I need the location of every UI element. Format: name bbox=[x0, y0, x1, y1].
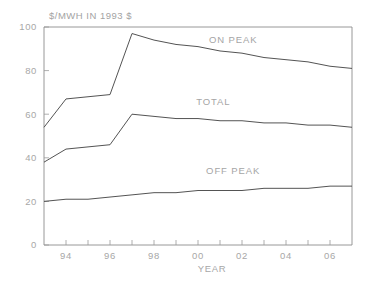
y-tick-label: 80 bbox=[25, 65, 37, 76]
y-tick-label: 0 bbox=[31, 239, 37, 250]
chart-title: $/MWH IN 1993 $ bbox=[49, 10, 132, 21]
x-axis-title: YEAR bbox=[198, 263, 226, 274]
series-label-off-peak: OFF PEAK bbox=[206, 165, 260, 176]
x-tick-label: 94 bbox=[60, 250, 72, 261]
series-label-total: TOTAL bbox=[196, 96, 230, 107]
x-tick-label: 04 bbox=[280, 250, 292, 261]
y-tick-label: 100 bbox=[19, 21, 37, 32]
x-tick-label: 96 bbox=[104, 250, 116, 261]
y-tick-label: 40 bbox=[25, 152, 37, 163]
x-tick-label: 06 bbox=[324, 250, 336, 261]
line-chart: 020406080100 94969800020406 ON PEAKTOTAL… bbox=[0, 0, 375, 281]
y-tick-label: 60 bbox=[25, 109, 37, 120]
series-label-on-peak: ON PEAK bbox=[209, 34, 258, 45]
x-tick-label: 00 bbox=[192, 250, 204, 261]
chart-figure: 020406080100 94969800020406 ON PEAKTOTAL… bbox=[0, 0, 375, 281]
x-tick-label: 98 bbox=[148, 250, 160, 261]
chart-background bbox=[0, 0, 375, 281]
x-tick-label: 02 bbox=[236, 250, 248, 261]
y-tick-label: 20 bbox=[25, 196, 37, 207]
